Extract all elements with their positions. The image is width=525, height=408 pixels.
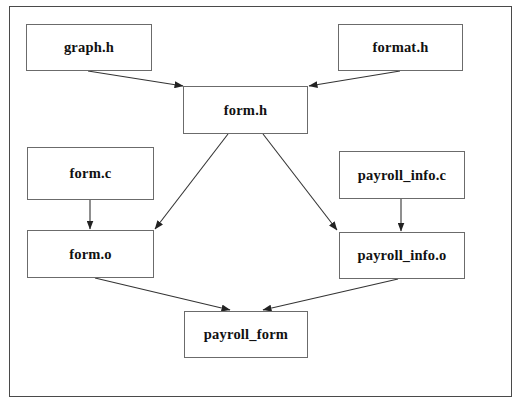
- edge-e1: [88, 71, 183, 86]
- node-label: payroll_info.c: [358, 168, 446, 183]
- edge-e4: [263, 134, 337, 230]
- edge-e7: [95, 278, 230, 310]
- node-label: format.h: [373, 40, 429, 55]
- edge-e3: [155, 134, 228, 229]
- node-label: payroll_form: [204, 327, 288, 342]
- node-payroll_info_o[interactable]: payroll_info.o: [339, 232, 465, 279]
- node-form_h[interactable]: form.h: [183, 86, 308, 134]
- node-form_c[interactable]: form.c: [27, 147, 154, 200]
- node-label: graph.h: [64, 40, 114, 55]
- node-graph_h[interactable]: graph.h: [26, 24, 152, 71]
- node-format_h[interactable]: format.h: [338, 24, 463, 71]
- node-payroll_form[interactable]: payroll_form: [184, 311, 308, 358]
- node-label: form.c: [70, 166, 112, 181]
- node-label: form.h: [224, 103, 267, 118]
- edge-e8: [263, 279, 398, 310]
- edge-e2: [309, 71, 400, 86]
- node-label: payroll_info.o: [357, 248, 446, 263]
- node-payroll_info_c[interactable]: payroll_info.c: [339, 151, 465, 199]
- node-label: form.o: [69, 247, 112, 262]
- node-form_o[interactable]: form.o: [27, 230, 154, 278]
- diagram-canvas: graph.hformat.hform.hform.cpayroll_info.…: [0, 0, 525, 408]
